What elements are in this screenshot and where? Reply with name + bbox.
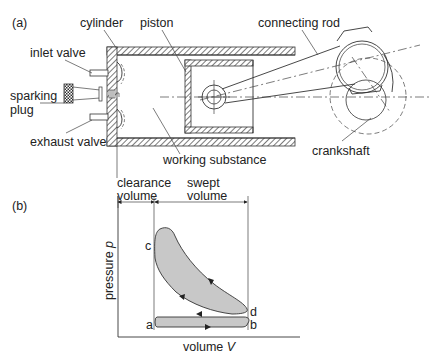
exhaust-valve-label: exhaust valve bbox=[30, 135, 106, 149]
pumping-loop bbox=[155, 317, 249, 327]
engine-cross-section: (a) bbox=[10, 16, 432, 178]
working-substance-label: working substance bbox=[162, 153, 267, 167]
swept-volume-label-line2: volume bbox=[187, 189, 227, 203]
engine-figure: (a) bbox=[0, 0, 444, 356]
point-c-label: c bbox=[145, 239, 151, 253]
crankshaft-label: crankshaft bbox=[312, 144, 370, 158]
clearance-volume-label-line1: clearance bbox=[117, 176, 171, 190]
crankshaft bbox=[330, 55, 406, 134]
swept-volume-label-line1: swept bbox=[187, 176, 220, 190]
cylinder-label: cylinder bbox=[80, 16, 123, 30]
pv-diagram: (b) clearance volume swept volume c d b … bbox=[12, 176, 300, 354]
sparking-plug-label-line1: sparking bbox=[10, 89, 57, 103]
clearance-volume-label-line2: volume bbox=[117, 189, 157, 203]
x-axis-label: volume V bbox=[183, 340, 237, 354]
part-a-label: (a) bbox=[12, 16, 27, 30]
y-axis-label: pressure p bbox=[102, 241, 116, 300]
piston-label: piston bbox=[140, 16, 173, 30]
point-d-label: d bbox=[250, 305, 257, 319]
inlet-valve-label: inlet valve bbox=[30, 46, 86, 60]
connecting-rod-label: connecting rod bbox=[258, 16, 340, 30]
point-a-label: a bbox=[146, 318, 153, 332]
sparking-plug-label-line2: plug bbox=[10, 103, 34, 117]
power-loop bbox=[155, 228, 248, 314]
part-b-label: (b) bbox=[12, 199, 27, 213]
piston bbox=[185, 60, 253, 133]
point-b-label: b bbox=[250, 318, 257, 332]
